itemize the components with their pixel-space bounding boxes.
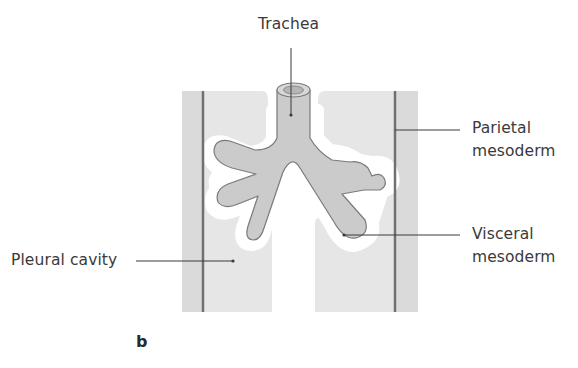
- visceral-mesoderm-label-line1: Visceral: [472, 224, 534, 245]
- parietal-mesoderm-label-line2: mesoderm: [472, 141, 556, 162]
- right-outer-band: [395, 91, 418, 312]
- left-outer-band: [182, 91, 203, 312]
- lung-bud-diagram: [0, 0, 578, 368]
- parietal-mesoderm-label-line1: Parietal: [472, 118, 531, 139]
- trachea-lumen: [284, 86, 304, 94]
- pleural-cavity-label: Pleural cavity: [11, 250, 117, 271]
- trachea-label: Trachea: [258, 14, 319, 35]
- visceral-mesoderm-label-line2: mesoderm: [472, 247, 556, 268]
- panel-letter: b: [136, 332, 147, 351]
